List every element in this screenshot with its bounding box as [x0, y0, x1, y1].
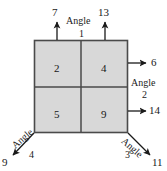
arrow-label-11: 11	[152, 157, 163, 168]
angle-3-number: 3	[125, 150, 130, 160]
arrow-label-7: 7	[52, 7, 58, 18]
arrow-label-14: 14	[149, 105, 160, 116]
angle-diagram: 2 4 5 9 7 13 6 14 9 11 Angle 1 Angle 2 A…	[0, 0, 167, 171]
angle-2-word: Angle	[131, 78, 155, 88]
cell-top-right-value: 4	[101, 62, 107, 74]
arrow-label-13: 13	[98, 7, 109, 18]
cell-top-left-value: 2	[54, 62, 60, 74]
cell-bottom-right-value: 9	[101, 108, 107, 120]
arrow-label-6: 6	[151, 57, 157, 68]
cell-bottom-left-value: 5	[54, 108, 60, 120]
angle-4-number: 4	[29, 150, 34, 160]
angle-2-number: 2	[142, 90, 147, 100]
angle-1-number: 1	[79, 29, 84, 39]
angle-1-word: Angle	[66, 16, 90, 26]
arrow-label-9: 9	[2, 157, 8, 168]
